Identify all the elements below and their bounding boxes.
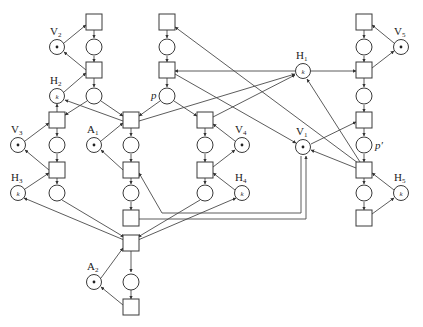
svg-text:H2: H2 (50, 74, 62, 88)
svg-text:H5: H5 (394, 171, 406, 185)
svg-text:V4: V4 (235, 123, 247, 137)
place (49, 137, 65, 153)
place-p (159, 88, 175, 104)
transition (123, 235, 139, 251)
transition (356, 162, 372, 178)
place (86, 39, 102, 55)
place (123, 137, 139, 153)
transition (86, 62, 102, 78)
place-H2: k H2 (50, 74, 65, 104)
transition (123, 210, 139, 226)
place (197, 137, 213, 153)
token-dot-icon (93, 144, 96, 147)
place (159, 39, 175, 55)
svg-text:V1: V1 (296, 125, 308, 139)
place (49, 185, 65, 201)
place-H1: k H1 (296, 49, 311, 79)
place (86, 88, 102, 104)
place (197, 185, 213, 201)
place-V5: V5 (394, 25, 409, 55)
place-V2: V2 (50, 25, 65, 55)
transition (49, 162, 65, 178)
svg-text:A1: A1 (87, 123, 99, 137)
place (356, 39, 372, 55)
petri-net-diagram: V2 k H2 V3 k H3 A1 V4 k H4 k H1 V1 V5 k … (0, 0, 423, 327)
transition (49, 112, 65, 128)
transition (356, 210, 372, 226)
svg-text:V5: V5 (394, 25, 406, 39)
place-p-prime (356, 137, 372, 153)
transition (123, 299, 139, 315)
place-H3: k H3 (11, 171, 26, 201)
transition (123, 112, 139, 128)
place-V3: V3 (11, 123, 26, 153)
token-dot-icon (17, 144, 20, 147)
place (356, 88, 372, 104)
transition (356, 112, 372, 128)
transition (123, 162, 139, 178)
transition (86, 14, 102, 30)
place (123, 274, 139, 290)
transition (356, 14, 372, 30)
token-dot-icon (241, 144, 244, 147)
token-dot-icon (302, 146, 305, 149)
transition (197, 162, 213, 178)
place-V1: V1 (296, 125, 311, 155)
svg-text:V2: V2 (50, 25, 62, 39)
transition (159, 14, 175, 30)
svg-text:H4: H4 (235, 171, 247, 185)
transition (356, 62, 372, 78)
place-H5: k H5 (394, 171, 409, 201)
place-A1: A1 (87, 123, 102, 153)
token-dot-icon (56, 46, 59, 49)
svg-text:H3: H3 (11, 171, 23, 185)
place (123, 185, 139, 201)
label-p: p (150, 89, 157, 101)
svg-text:H1: H1 (296, 49, 308, 63)
label-p-prime: p′ (374, 139, 384, 151)
svg-text:A2: A2 (87, 260, 99, 274)
transition (197, 112, 213, 128)
svg-text:V3: V3 (11, 123, 23, 137)
place (356, 185, 372, 201)
token-dot-icon (400, 46, 403, 49)
place-V4: V4 (235, 123, 250, 153)
transition (159, 62, 175, 78)
place-H4: k H4 (235, 171, 250, 201)
token-dot-icon (93, 281, 96, 284)
place-A2: A2 (87, 260, 102, 290)
